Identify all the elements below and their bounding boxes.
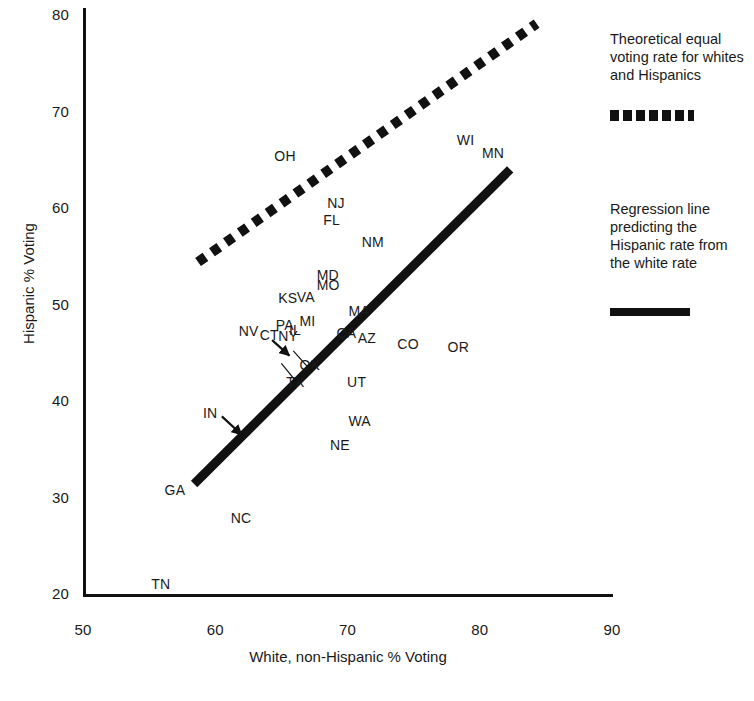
data-label-oh: OH (274, 149, 295, 163)
data-label-ma: MA (348, 304, 369, 318)
data-label-or: OR (448, 340, 469, 354)
x-axis-title: White, non-Hispanic % Voting (83, 648, 613, 665)
x-tick-80: 80 (463, 621, 497, 638)
y-tick-50: 50 (35, 296, 69, 313)
solid-line-swatch-icon (610, 308, 690, 316)
data-label-az: AZ (358, 331, 376, 345)
data-label-wi: WI (457, 133, 475, 147)
y-tick-30: 30 (35, 489, 69, 506)
data-label-ks: KS (278, 291, 297, 305)
legend-label-regression: Regression line predicting the Hispanic … (610, 200, 750, 272)
x-tick-60: 60 (198, 621, 232, 638)
data-label-tx: TX (286, 375, 304, 389)
legend-label-theoretical: Theoretical equal voting rate for whites… (610, 30, 750, 84)
data-label-mo: MO (317, 278, 340, 292)
y-tick-60: 60 (35, 199, 69, 216)
y-tick-40: 40 (35, 392, 69, 409)
x-tick-90: 90 (595, 621, 629, 638)
data-label-nm: NM (362, 235, 384, 249)
legend-item-theoretical: Theoretical equal voting rate for whites… (610, 30, 750, 121)
y-axis-line (83, 8, 86, 597)
data-label-nj: NJ (327, 196, 345, 210)
data-label-ga: GA (165, 483, 186, 497)
y-axis-title: Hispanic % Voting (20, 194, 37, 374)
data-label-co: CO (397, 337, 418, 351)
data-label-ny: NY (278, 329, 298, 343)
x-tick-50: 50 (66, 621, 100, 638)
y-tick-80: 80 (35, 6, 69, 23)
data-label-nv: NV (239, 324, 259, 338)
data-label-wa: WA (348, 414, 370, 428)
y-tick-70: 70 (35, 103, 69, 120)
data-label-fl: FL (323, 213, 340, 227)
data-label-nc: NC (231, 511, 252, 525)
in-arrow (222, 416, 242, 434)
data-label-in: IN (203, 406, 217, 420)
data-label-ut: UT (347, 375, 366, 389)
legend-item-regression: Regression line predicting the Hispanic … (610, 200, 750, 316)
x-tick-70: 70 (331, 621, 365, 638)
y-tick-20: 20 (35, 585, 69, 602)
data-label-va: VA (297, 290, 315, 304)
data-label-ca: CA (337, 326, 357, 340)
scatter-plot-figure: 80706050403020 5060708090 Hispanic % Vot… (0, 0, 754, 701)
data-label-ct: CT (260, 328, 279, 342)
data-label-mi: MI (299, 314, 315, 328)
theoretical-equal-rate-line (198, 24, 537, 262)
data-label-ok: OK (299, 358, 320, 372)
data-label-tn: TN (151, 577, 170, 591)
data-label-mn: MN (482, 146, 504, 160)
data-label-ne: NE (330, 438, 350, 452)
dotted-line-swatch-icon (610, 110, 694, 121)
x-axis-line (83, 594, 613, 597)
